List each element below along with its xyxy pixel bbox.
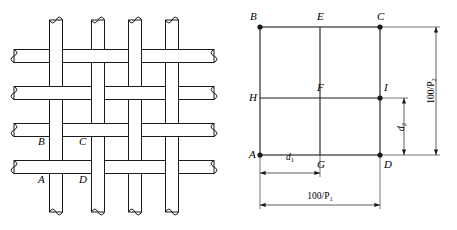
- dim-label-warp-pitch: 100/P1: [307, 191, 332, 202]
- weft-pitch-subscript: 2: [430, 78, 437, 81]
- geom-point-label-A: A: [248, 148, 256, 160]
- geom-point-dot-C: [377, 24, 382, 29]
- weave-label-D: D: [78, 173, 87, 185]
- geom-point-label-F: F: [316, 81, 324, 93]
- geom-point-label-I: I: [383, 81, 389, 93]
- geom-point-dot-I: [377, 95, 382, 100]
- weft-pitch-text: 100/P: [426, 82, 436, 104]
- geom-point-label-H: H: [248, 91, 258, 103]
- geom-point-dot-D: [377, 152, 382, 157]
- warp-pitch-subscript: 1: [329, 195, 332, 202]
- weave-label-A: A: [37, 173, 45, 185]
- geom-point-dot-A: [257, 152, 262, 157]
- dim-label-d2: d2: [396, 123, 407, 131]
- geom-point-label-E: E: [316, 10, 324, 22]
- warp-pitch-text: 100/P: [307, 191, 329, 201]
- geometry-svg: BECHFIAGD d1 d2 100/P1 100/P2: [228, 0, 457, 230]
- geom-point-label-D: D: [383, 158, 392, 170]
- geom-point-dot-B: [257, 24, 262, 29]
- geom-point-label-C: C: [377, 10, 385, 22]
- dim-label-weft-pitch: 100/P2: [426, 78, 437, 103]
- geom-point-label-G: G: [317, 158, 325, 170]
- plain-weave-diagram: B C A D: [0, 0, 228, 230]
- geom-point-label-B: B: [250, 10, 257, 22]
- unit-cell-geometry-diagram: BECHFIAGD d1 d2 100/P1 100/P2: [228, 0, 457, 230]
- dim-d1-subscript: 1: [291, 156, 294, 163]
- weave-label-B: B: [38, 135, 45, 147]
- dim-label-d1: d1: [286, 152, 294, 163]
- dim-d2-subscript: 2: [400, 123, 407, 126]
- weave-label-C: C: [79, 135, 87, 147]
- figure-root: B C A D BECHFIAGD d1: [0, 0, 457, 230]
- weave-svg: B C A D: [0, 0, 228, 230]
